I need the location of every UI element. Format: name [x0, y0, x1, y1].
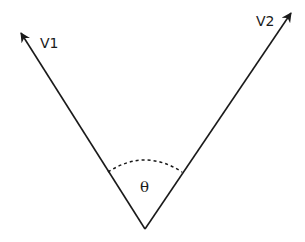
vector-v2	[145, 13, 291, 229]
v2-label: V2	[256, 13, 274, 29]
theta-label: θ	[140, 178, 149, 196]
angle-arc	[108, 160, 182, 172]
vector-v1	[21, 33, 145, 229]
vector-angle-diagram: V1 V2 θ	[0, 0, 305, 242]
v1-label: V1	[40, 35, 58, 51]
